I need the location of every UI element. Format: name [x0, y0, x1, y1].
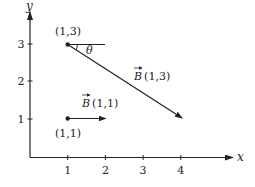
point-label: (1,3) — [55, 25, 81, 38]
y-axis-label: y — [25, 0, 33, 13]
point-label: (1,1) — [55, 127, 81, 140]
vector-b-1-3: θ (1,3) B(1,3) — [55, 25, 182, 118]
vector-label: B(1,1) — [81, 97, 118, 110]
y-tick-label: 3 — [18, 38, 25, 51]
vector-b-1-1: (1,1) B(1,1) — [55, 95, 118, 140]
vector-label: B(1,3) — [133, 70, 170, 83]
x-tick-label: 3 — [140, 164, 147, 177]
vector-name: B — [133, 70, 142, 83]
x-axis-label: x — [237, 150, 244, 164]
vector-field-diagram: x y 1 2 3 4 1 2 3 θ (1,3) B(1,3) — [0, 0, 255, 187]
point-dot — [66, 42, 70, 46]
x-tick-label: 4 — [177, 164, 184, 177]
y-tick-label: 1 — [18, 113, 25, 126]
vector-arg: (1,3) — [144, 70, 170, 83]
x-ticks: 1 2 3 4 — [64, 155, 184, 177]
y-tick-label: 2 — [18, 75, 25, 88]
angle-theta-label: θ — [86, 44, 93, 57]
vector-name: B — [81, 97, 90, 110]
x-tick-label: 1 — [64, 164, 71, 177]
vector-arg: (1,1) — [92, 97, 118, 110]
x-tick-label: 2 — [102, 164, 109, 177]
point-dot — [66, 116, 70, 120]
